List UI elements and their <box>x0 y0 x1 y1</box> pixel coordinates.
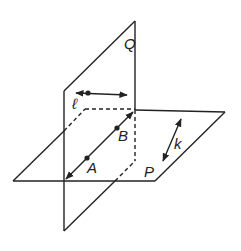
plane-p <box>13 109 225 181</box>
intersection-line-ab <box>66 112 133 179</box>
diagram-canvas: Q ℓ B A k P <box>0 0 241 251</box>
label-line-l: ℓ <box>71 95 78 112</box>
planes-diagram: Q ℓ B A k P <box>0 0 241 251</box>
label-line-k: k <box>174 135 183 152</box>
plane-q <box>64 21 135 231</box>
line-l <box>76 93 127 95</box>
line-l-dot <box>85 90 90 95</box>
label-point-b: B <box>118 127 128 144</box>
label-point-a: A <box>86 159 97 176</box>
label-plane-p: P <box>144 163 154 180</box>
label-plane-q: Q <box>124 35 136 52</box>
